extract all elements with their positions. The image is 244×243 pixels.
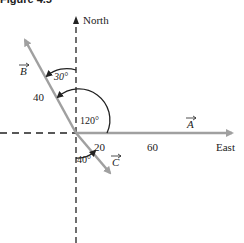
vector-diagram: North East A B C 60 40 20 30° 120° 40° — [0, 0, 244, 243]
magnitude-c: 20 — [94, 141, 106, 153]
magnitude-b: 40 — [33, 91, 45, 103]
magnitude-a: 60 — [147, 141, 159, 153]
svg-text:A: A — [186, 118, 194, 130]
north-arrow-icon — [73, 16, 79, 24]
east-label: East — [216, 141, 235, 153]
angle-120-label: 120° — [80, 115, 99, 126]
north-label: North — [83, 14, 109, 26]
vector-c-label: C — [111, 154, 121, 168]
vector-b-label: B — [19, 63, 29, 77]
angle-30-label: 30° — [53, 71, 68, 82]
angle-40-label: 40° — [77, 154, 91, 165]
vector-b — [25, 40, 76, 133]
vector-a-label: A — [186, 116, 196, 130]
arc-120 — [58, 89, 110, 133]
